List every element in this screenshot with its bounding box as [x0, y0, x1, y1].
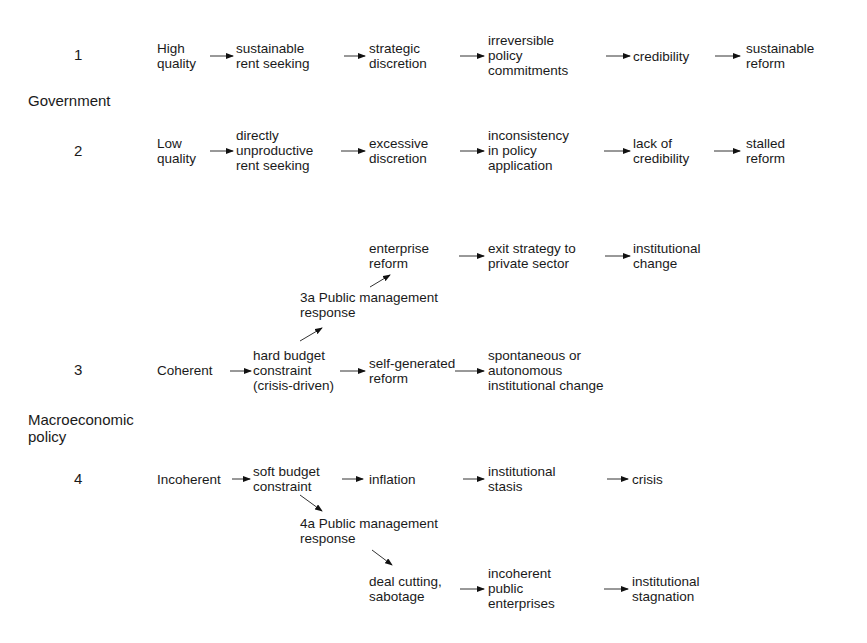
node-directly-unproductive-rent-seeking: directly unproductive rent seeking	[236, 128, 313, 173]
node-exit-strategy-to-private-sector: exit strategy to private sector	[488, 241, 576, 271]
node-incoherent: Incoherent	[157, 472, 221, 487]
node-stalled-reform: stalled reform	[746, 136, 785, 166]
arrows-layer	[0, 0, 867, 643]
row-3-number: 3	[74, 362, 82, 377]
node-sustainable-rent-seeking: sustainable rent seeking	[236, 41, 310, 71]
node-institutional-change: institutional change	[633, 241, 701, 271]
node-institutional-stasis: institutional stasis	[488, 464, 556, 494]
row-1-number: 1	[74, 47, 82, 62]
node-self-generated-reform: self-generated reform	[369, 356, 455, 386]
node-irreversible-policy-commitments: irreversible policy commitments	[488, 33, 568, 78]
node-soft-budget-constraint: soft budget constraint	[253, 464, 320, 494]
node-incoherent-public-enterprises: incoherent public enterprises	[488, 566, 555, 611]
node-strategic-discretion: strategic discretion	[369, 41, 427, 71]
node-enterprise-reform: enterprise reform	[369, 241, 429, 271]
node-excessive-discretion: excessive discretion	[369, 136, 428, 166]
node-inflation: inflation	[369, 472, 416, 487]
node-high-quality: High quality	[157, 41, 196, 71]
node-spontaneous-institutional-change: spontaneous or autonomous institutional …	[488, 348, 604, 393]
node-institutional-stagnation: institutional stagnation	[632, 574, 700, 604]
row-4-number: 4	[74, 471, 82, 486]
section-label-macroeconomic-policy: Macroeconomic policy	[28, 411, 134, 445]
node-crisis: crisis	[632, 472, 663, 487]
branch-4a-public-management-response: 4a Public management response	[300, 516, 438, 546]
node-low-quality: Low quality	[157, 136, 196, 166]
node-sustainable-reform: sustainable reform	[746, 41, 814, 71]
node-inconsistency-in-policy-application: inconsistency in policy application	[488, 128, 569, 173]
node-lack-of-credibility: lack of credibility	[633, 136, 689, 166]
node-hard-budget-constraint: hard budget constraint (crisis-driven)	[253, 348, 334, 393]
row-2-number: 2	[74, 143, 82, 158]
branch-3a-public-management-response: 3a Public management response	[300, 290, 438, 320]
node-credibility: credibility	[633, 49, 689, 64]
node-deal-cutting-sabotage: deal cutting, sabotage	[369, 574, 442, 604]
section-label-government: Government	[28, 92, 111, 109]
node-coherent: Coherent	[157, 363, 213, 378]
